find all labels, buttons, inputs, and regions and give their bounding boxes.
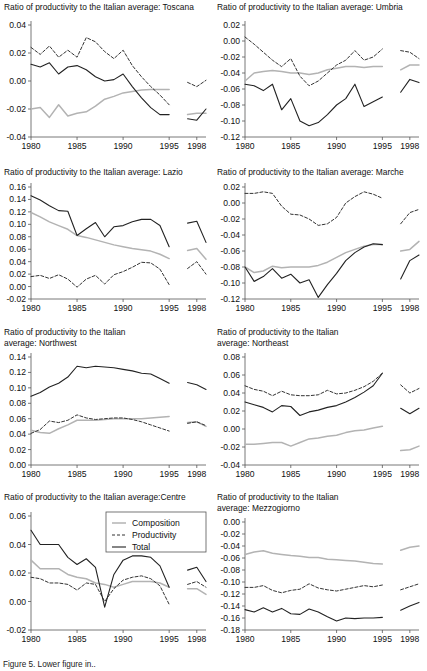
- x-tick-label: 1998: [187, 141, 206, 151]
- x-tick-label: 1980: [21, 303, 40, 313]
- x-tick-label: 1980: [235, 141, 254, 151]
- x-tick-label: 1980: [235, 634, 254, 644]
- y-tick-label: -0.02: [220, 52, 240, 62]
- x-tick-label: 1980: [235, 469, 254, 479]
- series-line-composition: [245, 551, 382, 564]
- series-line-total: [188, 221, 206, 242]
- x-tick-label: 1995: [160, 469, 179, 479]
- y-tick-label: 0.06: [9, 511, 26, 521]
- y-tick-label: -0.12: [220, 589, 240, 599]
- x-tick-label: 1980: [21, 141, 40, 151]
- y-tick-label: 0.14: [9, 352, 26, 362]
- series-line-productivity: [401, 584, 419, 590]
- series-line-productivity: [31, 576, 169, 605]
- x-tick-label: 1980: [21, 634, 40, 644]
- x-tick-label: 1998: [400, 469, 419, 479]
- y-tick-label: 0.02: [9, 269, 26, 279]
- legend-label-composition: Composition: [132, 518, 180, 528]
- chart-panel-lazio: Ratio of productivity to the Italian ave…: [0, 165, 213, 325]
- y-tick-label: 0.06: [223, 370, 240, 380]
- x-tick-label: 1995: [373, 469, 392, 479]
- x-tick-label: 1995: [373, 141, 392, 151]
- chart-svg-northwest: 0.000.020.040.060.080.100.120.1419801985…: [0, 325, 213, 490]
- series-line-composition: [31, 89, 169, 117]
- x-tick-label: 1995: [373, 634, 392, 644]
- x-tick-label: 1985: [281, 303, 300, 313]
- x-tick-label: 1998: [187, 634, 206, 644]
- series-line-productivity: [245, 37, 382, 86]
- x-tick-label: 1995: [160, 141, 179, 151]
- series-line-productivity: [245, 373, 382, 396]
- x-tick-label: 1980: [21, 469, 40, 479]
- y-tick-label: 0.02: [9, 568, 26, 578]
- y-tick-label: 0.04: [223, 388, 240, 398]
- y-tick-label: 0.00: [223, 517, 240, 527]
- x-tick-label: 1995: [373, 303, 392, 313]
- x-tick-label: 1998: [400, 141, 419, 151]
- x-tick-label: 1990: [114, 141, 133, 151]
- y-tick-label: 0.08: [223, 352, 240, 362]
- y-tick-label: 0.04: [9, 540, 26, 550]
- y-tick-label: -0.06: [220, 84, 240, 94]
- x-tick-label: 1990: [114, 469, 133, 479]
- chart-svg-umbria: -0.12-0.10-0.08-0.06-0.04-0.020.000.0219…: [213, 0, 427, 165]
- y-tick-label: 0.10: [9, 383, 26, 393]
- series-line-total: [31, 63, 169, 115]
- chart-svg-northeast: -0.04-0.020.000.020.040.060.081980198519…: [213, 325, 427, 490]
- x-tick-label: 1990: [327, 303, 346, 313]
- series-line-composition: [245, 67, 382, 81]
- y-tick-label: -0.08: [220, 262, 240, 272]
- series-line-total: [31, 366, 169, 396]
- series-line-productivity: [188, 582, 206, 588]
- chart-panel-umbria: Ratio of productivity to the Italian ave…: [213, 0, 427, 165]
- series-line-total: [401, 602, 419, 610]
- x-tick-label: 1995: [160, 303, 179, 313]
- y-tick-label: 0.00: [9, 282, 26, 292]
- y-tick-label: 0.12: [9, 367, 26, 377]
- chart-panel-toscana: Ratio of productivity to the Italian ave…: [0, 0, 213, 165]
- x-tick-label: 1998: [187, 303, 206, 313]
- y-tick-label: -0.02: [220, 442, 240, 452]
- y-tick-label: 0.00: [223, 198, 240, 208]
- legend-label-total: Total: [132, 542, 150, 552]
- y-tick-label: -0.16: [220, 613, 240, 623]
- y-tick-label: 0.00: [223, 424, 240, 434]
- y-tick-label: 0.16: [9, 182, 26, 192]
- series-line-productivity: [401, 209, 419, 223]
- chart-svg-mezzogiorno: -0.18-0.16-0.14-0.12-0.10-0.08-0.06-0.04…: [213, 490, 427, 655]
- chart-panel-centre: Ratio of productivity to the Italian ave…: [0, 490, 213, 655]
- series-line-composition: [401, 446, 419, 451]
- y-tick-label: -0.02: [6, 104, 26, 114]
- y-tick-label: -0.10: [220, 116, 240, 126]
- y-tick-label: -0.08: [220, 100, 240, 110]
- x-tick-label: 1990: [114, 634, 133, 644]
- legend-label-productivity: Productivity: [132, 530, 177, 540]
- x-tick-label: 1985: [67, 469, 86, 479]
- series-line-total: [401, 79, 419, 92]
- chart-svg-toscana: -0.04-0.020.000.020.04198019851990199519…: [0, 0, 213, 165]
- y-tick-label: 0.02: [223, 406, 240, 416]
- x-tick-label: 1995: [160, 634, 179, 644]
- x-tick-label: 1990: [114, 303, 133, 313]
- series-line-productivity: [31, 262, 169, 287]
- y-tick-label: 0.04: [9, 429, 26, 439]
- chart-panel-marche: Ratio of productivity to the Italian ave…: [213, 165, 427, 325]
- series-line-total: [401, 408, 419, 413]
- chart-svg-lazio: -0.020.000.020.040.060.080.100.120.140.1…: [0, 165, 213, 325]
- x-tick-label: 1985: [281, 634, 300, 644]
- series-line-productivity: [188, 262, 206, 274]
- series-line-total: [245, 84, 382, 126]
- y-tick-label: 0.00: [223, 36, 240, 46]
- series-line-composition: [401, 241, 419, 251]
- series-line-composition: [188, 589, 206, 595]
- chart-svg-marche: -0.12-0.10-0.08-0.06-0.04-0.020.000.0219…: [213, 165, 427, 325]
- series-line-composition: [401, 65, 419, 70]
- x-tick-label: 1985: [67, 634, 86, 644]
- series-line-total: [401, 255, 419, 279]
- x-tick-label: 1998: [187, 469, 206, 479]
- y-tick-label: -0.04: [220, 68, 240, 78]
- y-tick-label: 0.02: [9, 48, 26, 58]
- x-tick-label: 1990: [327, 469, 346, 479]
- y-tick-label: 0.12: [9, 207, 26, 217]
- series-line-total: [188, 382, 206, 389]
